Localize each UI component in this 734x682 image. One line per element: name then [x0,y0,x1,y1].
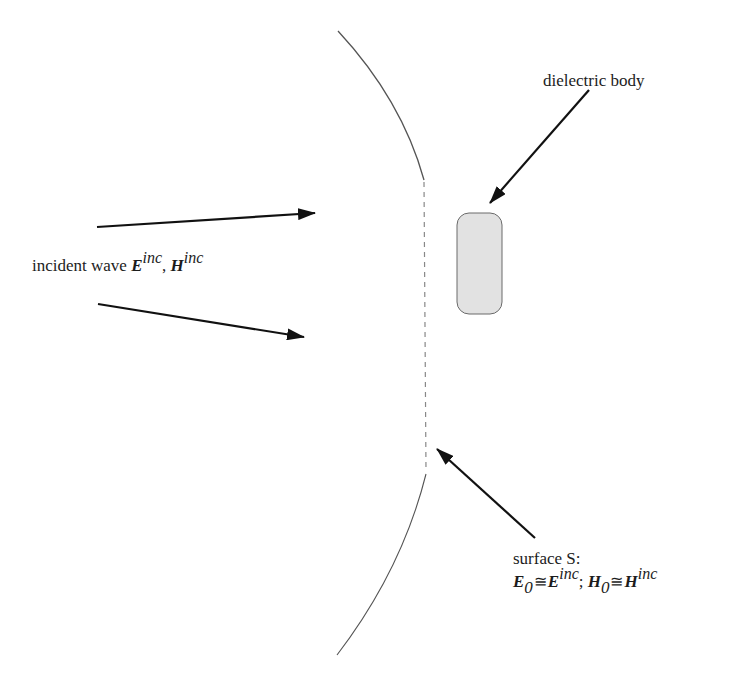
h0-subscript: 0 [601,578,610,597]
incident-arrow-upper [97,213,315,227]
dielectric-body-text: dielectric body [543,71,645,90]
approx-symbol-1: ≅ [533,573,548,590]
incident-wave-separator: , [162,256,171,275]
incident-arrow-lower [98,304,304,337]
e-field-symbol: E [131,256,142,275]
hinc-symbol: H [624,572,637,591]
surface-s-formula: E0≅Einc; H0≅Hinc [513,572,657,592]
surface-pointer-arrow [437,449,535,538]
surface-arc-upper [338,31,424,180]
dielectric-pointer-arrow [490,90,589,203]
surface-arc-lower [337,474,426,655]
e-field-superscript: inc [142,249,162,266]
h-field-superscript: inc [184,249,204,266]
e0-subscript: 0 [524,578,533,597]
approx-symbol-2: ≅ [609,573,624,590]
formula-semicolon: ; [579,572,588,591]
einc-superscript: inc [559,565,579,582]
e0-symbol: E [513,572,524,591]
dielectric-body-label: dielectric body [543,71,645,91]
incident-wave-label: incident wave Einc, Hinc [32,256,203,276]
incident-wave-prefix: incident wave [32,256,131,275]
einc-symbol: E [548,572,559,591]
h-field-symbol: H [171,256,184,275]
surface-dashed-segment [424,182,426,472]
hinc-superscript: inc [638,565,658,582]
dielectric-body-shape [457,213,502,314]
h0-symbol: H [588,572,601,591]
